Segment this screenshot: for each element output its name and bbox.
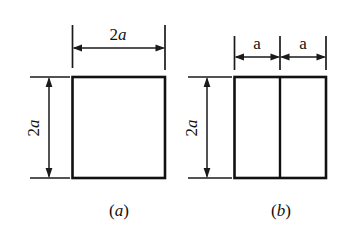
panel-a-width-label-var: a: [118, 25, 127, 44]
panel-a-caption-letter: a: [115, 201, 124, 220]
panel-b-height-arrow-top: [204, 77, 211, 87]
panel-a-width-label-num: 2: [110, 25, 119, 44]
panel-b-caption: (b): [271, 201, 291, 220]
panel-a-height-arrow-top: [46, 77, 53, 87]
panel-a-caption: (a): [109, 201, 129, 220]
panel-a-square: [73, 77, 166, 178]
panel-a-width-arrow-left: [73, 45, 83, 52]
figure-container: 2a 2a (a): [0, 0, 359, 238]
panel-b-left-segment-label: a: [253, 34, 261, 53]
panel-b-right-arrow-end: [317, 54, 327, 61]
panel-b-right-segment-label: a: [299, 34, 307, 53]
panel-a-group: 2a 2a (a): [24, 25, 165, 220]
panel-b-height-label-num: 2: [182, 128, 201, 137]
panel-b-left-arrow-end: [271, 54, 281, 61]
panel-a-height-label-var: a: [24, 120, 43, 129]
panel-b-right-arrow-start: [280, 54, 290, 61]
panel-a-height-arrow-bottom: [46, 168, 53, 178]
panel-a-caption-suffix: ): [123, 201, 129, 220]
panel-b-height-arrow-bottom: [204, 168, 211, 178]
panel-b-group: a a 2a (b): [182, 34, 326, 220]
panel-b-caption-letter: b: [277, 201, 286, 220]
panel-a-height-label-num: 2: [24, 128, 43, 137]
panel-b-height-label: 2a: [182, 120, 201, 137]
panel-b-height-label-var: a: [182, 120, 201, 129]
panel-b-caption-suffix: ): [285, 201, 291, 220]
panel-a-width-label: 2a: [110, 25, 127, 44]
panel-b-left-arrow-start: [235, 54, 245, 61]
panel-a-height-label: 2a: [24, 120, 43, 137]
panel-a-width-arrow-right: [156, 45, 166, 52]
dimension-diagram: 2a 2a (a): [0, 0, 359, 238]
